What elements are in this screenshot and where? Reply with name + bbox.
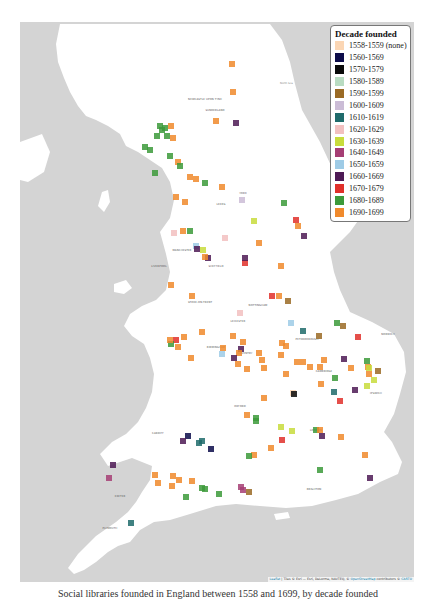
library-marker[interactable]	[256, 240, 262, 246]
library-marker[interactable]	[319, 433, 325, 439]
library-marker[interactable]	[348, 365, 354, 371]
library-marker[interactable]	[288, 320, 294, 326]
library-marker[interactable]	[246, 453, 252, 459]
library-marker[interactable]	[168, 123, 174, 129]
library-marker[interactable]	[175, 344, 181, 350]
library-marker[interactable]	[301, 233, 307, 239]
library-marker[interactable]	[176, 477, 182, 483]
library-marker[interactable]	[202, 254, 208, 260]
library-marker[interactable]	[219, 351, 225, 357]
library-marker[interactable]	[171, 230, 177, 236]
library-marker[interactable]	[338, 434, 344, 440]
library-marker[interactable]	[167, 337, 173, 343]
carto-link[interactable]: CARTO	[401, 577, 412, 581]
library-marker[interactable]	[230, 333, 236, 339]
library-marker[interactable]	[169, 483, 175, 489]
library-marker[interactable]	[318, 381, 324, 387]
library-marker[interactable]	[316, 333, 322, 339]
library-marker[interactable]	[332, 375, 338, 381]
library-marker[interactable]	[233, 120, 239, 126]
library-marker[interactable]	[269, 293, 275, 299]
library-marker[interactable]	[364, 383, 370, 389]
library-marker[interactable]	[362, 452, 368, 458]
library-marker[interactable]	[242, 255, 248, 261]
library-marker[interactable]	[256, 350, 262, 356]
library-marker[interactable]	[181, 334, 187, 340]
library-marker[interactable]	[337, 398, 343, 404]
library-marker[interactable]	[154, 133, 160, 139]
library-marker[interactable]	[199, 485, 205, 491]
library-marker[interactable]	[168, 282, 174, 288]
library-marker[interactable]	[317, 364, 323, 370]
library-marker[interactable]	[261, 395, 267, 401]
library-marker[interactable]	[289, 428, 295, 434]
library-marker[interactable]	[200, 247, 206, 253]
library-marker[interactable]	[261, 365, 267, 371]
library-marker[interactable]	[240, 339, 246, 345]
library-marker[interactable]	[170, 473, 176, 479]
library-marker[interactable]	[188, 355, 194, 361]
library-marker[interactable]	[340, 323, 346, 329]
library-marker[interactable]	[219, 184, 225, 190]
library-marker[interactable]	[278, 352, 284, 358]
library-marker[interactable]	[317, 467, 323, 473]
library-marker[interactable]	[307, 364, 313, 370]
library-marker[interactable]	[216, 491, 222, 497]
library-marker[interactable]	[283, 343, 289, 349]
osm-link[interactable]: OpenStreetMap	[351, 577, 376, 581]
library-marker[interactable]	[180, 228, 186, 234]
library-marker[interactable]	[278, 263, 284, 269]
library-marker[interactable]	[295, 223, 301, 229]
library-marker[interactable]	[229, 61, 235, 67]
library-marker[interactable]	[371, 377, 377, 383]
library-marker[interactable]	[230, 89, 236, 95]
library-marker[interactable]	[170, 135, 176, 141]
library-marker[interactable]	[246, 489, 252, 495]
library-marker[interactable]	[341, 356, 347, 362]
library-marker[interactable]	[183, 494, 189, 500]
library-marker[interactable]	[182, 199, 188, 205]
library-marker[interactable]	[259, 357, 265, 363]
library-marker[interactable]	[239, 197, 245, 203]
library-marker[interactable]	[300, 359, 306, 365]
library-marker[interactable]	[367, 475, 373, 481]
library-marker[interactable]	[202, 180, 208, 186]
library-marker[interactable]	[279, 437, 285, 443]
library-marker[interactable]	[375, 368, 381, 374]
library-marker[interactable]	[128, 520, 134, 526]
library-marker[interactable]	[152, 472, 158, 478]
library-marker[interactable]	[276, 293, 282, 299]
library-marker[interactable]	[281, 200, 287, 206]
library-marker[interactable]	[235, 361, 241, 367]
library-marker[interactable]	[244, 366, 250, 372]
library-marker[interactable]	[177, 163, 183, 169]
library-marker[interactable]	[155, 480, 161, 486]
leaflet-link[interactable]: Leaflet	[270, 577, 281, 581]
library-marker[interactable]	[366, 365, 372, 371]
library-marker[interactable]	[300, 328, 306, 334]
library-marker[interactable]	[180, 438, 186, 444]
library-marker[interactable]	[291, 391, 297, 397]
library-marker[interactable]	[238, 484, 244, 490]
library-marker[interactable]	[167, 153, 173, 159]
library-marker[interactable]	[355, 334, 361, 340]
library-marker[interactable]	[152, 170, 158, 176]
library-marker[interactable]	[222, 235, 228, 241]
library-marker[interactable]	[208, 446, 214, 452]
library-marker[interactable]	[110, 462, 116, 468]
library-marker[interactable]	[321, 357, 327, 363]
library-marker[interactable]	[294, 359, 300, 365]
library-marker[interactable]	[187, 228, 193, 234]
library-marker[interactable]	[278, 424, 284, 430]
library-marker[interactable]	[251, 218, 257, 224]
library-marker[interactable]	[268, 445, 274, 451]
library-marker[interactable]	[193, 176, 199, 182]
library-marker[interactable]	[253, 415, 259, 421]
library-marker[interactable]	[285, 298, 291, 304]
library-marker[interactable]	[213, 118, 219, 124]
library-marker[interactable]	[189, 293, 195, 299]
library-marker[interactable]	[147, 147, 153, 153]
library-marker[interactable]	[237, 310, 243, 316]
library-marker[interactable]	[244, 412, 250, 418]
library-marker[interactable]	[189, 478, 195, 484]
